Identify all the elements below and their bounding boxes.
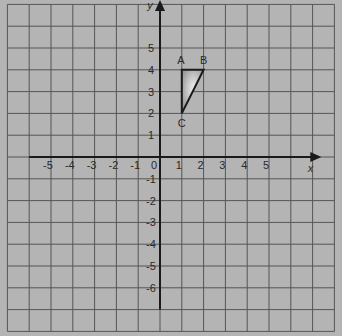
y-tick-label: -4 <box>146 238 156 250</box>
y-tick-label: 5 <box>148 42 154 54</box>
x-tick-label: 1 <box>176 159 182 171</box>
y-tick-label: -5 <box>146 260 156 272</box>
y-axis-label: y <box>146 0 154 11</box>
coordinate-plane: -5-4-3-2-11234554321-1-2-3-4-5-60xyABC <box>0 0 342 336</box>
origin-label: 0 <box>151 159 157 171</box>
x-tick-label: 4 <box>241 159 247 171</box>
y-tick-label: 3 <box>148 86 154 98</box>
x-tick-label: -1 <box>130 159 140 171</box>
x-tick-label: -3 <box>87 159 97 171</box>
grid-svg: -5-4-3-2-11234554321-1-2-3-4-5-60xyABC <box>0 0 342 336</box>
y-tick-label: 4 <box>148 64 154 76</box>
x-tick-label: 2 <box>198 159 204 171</box>
y-tick-label: 1 <box>148 129 154 141</box>
vertex-label-a: A <box>177 54 185 66</box>
y-tick-label: 2 <box>148 107 154 119</box>
x-tick-label: 3 <box>219 159 225 171</box>
x-tick-label: -4 <box>65 159 75 171</box>
x-axis-label: x <box>307 162 314 174</box>
y-tick-label: -6 <box>146 282 156 294</box>
vertex-label-b: B <box>200 54 207 66</box>
y-tick-label: -2 <box>146 195 156 207</box>
x-axis-arrow-icon <box>310 152 321 162</box>
y-tick-label: -3 <box>146 216 156 228</box>
y-tick-label: -1 <box>146 173 156 185</box>
x-tick-label: -2 <box>109 159 119 171</box>
x-tick-label: -5 <box>43 159 53 171</box>
vertex-label-c: C <box>178 117 186 129</box>
x-tick-label: 5 <box>263 159 269 171</box>
y-axis-arrow-icon <box>155 0 165 11</box>
